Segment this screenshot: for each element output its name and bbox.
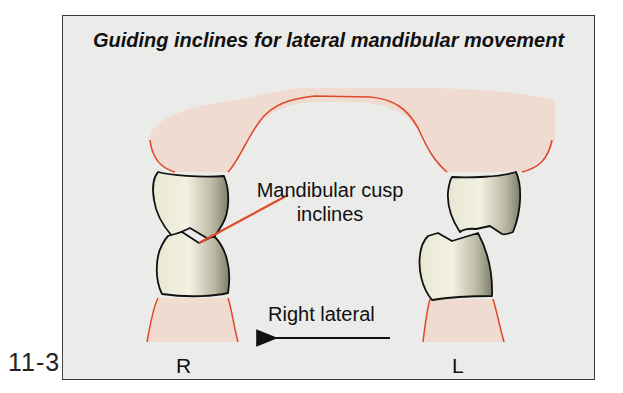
mandibular-tooth-right-side — [157, 232, 229, 296]
direction-label: Right lateral — [268, 302, 375, 326]
mandibular-tooth-left-side — [420, 233, 493, 300]
lower-gingiva-left-side — [423, 299, 504, 342]
left-side-label: L — [452, 354, 464, 378]
maxillary-tooth-right-side — [153, 172, 228, 240]
maxillary-tooth-left-side — [448, 172, 520, 234]
right-side-label: R — [176, 354, 191, 378]
callout-label: Mandibular cusp inclines — [250, 178, 410, 226]
lower-gingiva-right-side — [147, 298, 238, 342]
upper-gingiva — [150, 88, 555, 172]
